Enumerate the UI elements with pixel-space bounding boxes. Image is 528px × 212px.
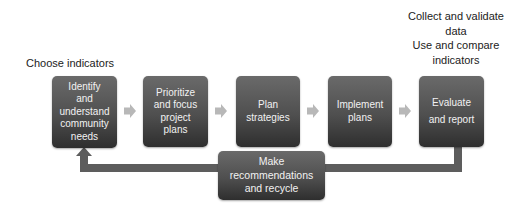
- step-1-line-4: community: [59, 118, 109, 131]
- step-2-line-3: project: [154, 112, 197, 125]
- step-plan-strategies: Plan strategies: [236, 76, 300, 147]
- step-1-line-3: understand: [59, 106, 109, 119]
- arrow-right-icon: [399, 104, 411, 118]
- note-line-2: data: [396, 24, 516, 39]
- make-recommendations-box: Make recommendations and recycle: [218, 151, 325, 200]
- loop-up-to-identify: [80, 154, 88, 172]
- step-4-line-2: plans: [337, 112, 384, 125]
- step-1-line-1: Identify: [59, 81, 109, 94]
- arrow-right-icon: [307, 104, 319, 118]
- note-line-1: Collect and validate: [396, 9, 516, 24]
- note-line-4: indicators: [396, 53, 516, 68]
- arrow-right-icon: [124, 104, 136, 118]
- step-1-line-5: needs: [59, 131, 109, 144]
- step-2-line-4: plans: [154, 124, 197, 137]
- feedback-line-2: recommendations: [230, 169, 313, 183]
- step-identify-needs: Identify and understand community needs: [52, 76, 117, 148]
- step-5-line-2: and report: [429, 114, 475, 127]
- arrow-right-icon: [215, 104, 227, 118]
- collect-use-indicators-note: Collect and validate data Use and compar…: [396, 9, 516, 67]
- step-2-line-1: Prioritize: [154, 87, 197, 100]
- step-2-line-2: and focus: [154, 99, 197, 112]
- step-3-line-2: strategies: [246, 112, 289, 125]
- feedback-line-3: and recycle: [230, 182, 313, 196]
- step-1-line-2: and: [59, 93, 109, 106]
- note-line-3: Use and compare: [396, 38, 516, 53]
- step-evaluate-report: Evaluate and report: [419, 76, 484, 147]
- step-3-line-1: Plan: [246, 99, 289, 112]
- feedback-line-1: Make: [230, 155, 313, 169]
- step-implement-plans: Implement plans: [328, 76, 392, 147]
- step-prioritize-plans: Prioritize and focus project plans: [143, 76, 208, 147]
- choose-indicators-label: Choose indicators: [26, 56, 114, 70]
- loop-arrowhead-up-icon: [76, 147, 92, 156]
- step-4-line-1: Implement: [337, 99, 384, 112]
- step-5-line-1: Evaluate: [429, 97, 475, 110]
